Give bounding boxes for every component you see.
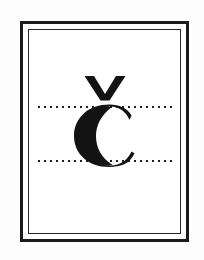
top-guide-line (36, 106, 175, 108)
writing-guide-area (28, 29, 181, 234)
caron-diacritic-shape (84, 76, 125, 101)
letter-glyph-c-caron (74, 75, 136, 167)
letter-card (0, 0, 204, 260)
letter-container (28, 29, 181, 234)
capital-c-shape (74, 105, 135, 168)
bottom-guide-line (36, 160, 175, 162)
